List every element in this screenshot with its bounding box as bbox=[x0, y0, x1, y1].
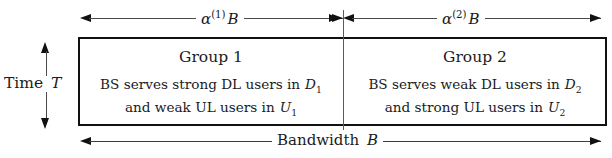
dimension-label-time: Time T bbox=[2, 76, 63, 92]
group-1-line-1-prefix: BS serves strong DL users in bbox=[100, 76, 300, 92]
group-2-line-2-prefix: and strong UL users in bbox=[385, 99, 543, 115]
set-D-subscript: 2 bbox=[576, 84, 582, 95]
group-1-title: Group 1 bbox=[80, 50, 342, 66]
arrow-head-right-icon bbox=[590, 14, 601, 22]
bandwidth-label-text: Bandwidth bbox=[277, 131, 359, 149]
group-2-block: Group 2 BS serves weak DL users inD2 and… bbox=[345, 42, 605, 124]
set-D-subscript: 1 bbox=[316, 84, 322, 95]
group-1-line-1: BS serves strong DL users inD1 bbox=[80, 78, 342, 94]
arrow-head-down-icon bbox=[41, 118, 49, 129]
group-2-title: Group 2 bbox=[345, 50, 605, 66]
arrow-head-right-icon bbox=[590, 137, 601, 145]
bandwidth-symbol: B bbox=[367, 131, 378, 149]
set-U-symbol: U bbox=[548, 99, 559, 115]
dimension-label-bandwidth: Bandwidth B bbox=[272, 133, 383, 148]
alpha-superscript-2: (2) bbox=[452, 9, 466, 20]
alpha-symbol: α bbox=[442, 10, 452, 28]
group-divider bbox=[343, 10, 344, 130]
time-symbol: T bbox=[51, 74, 61, 92]
group-1-block: Group 1 BS serves strong DL users inD1 a… bbox=[80, 42, 342, 124]
group-2-line-1-prefix: BS serves weak DL users in bbox=[368, 76, 559, 92]
dimension-label-top-right: α(2)B bbox=[437, 10, 485, 27]
arrow-head-center-icon bbox=[329, 14, 338, 22]
group-2-line-2: and strong UL users inU2 bbox=[345, 101, 605, 117]
group-1-line-2: and weak UL users inU1 bbox=[80, 101, 342, 117]
time-label-text: Time bbox=[4, 74, 43, 92]
bandwidth-symbol: B bbox=[469, 10, 481, 28]
group-2-line-1: BS serves weak DL users inD2 bbox=[345, 78, 605, 94]
set-U-subscript: 2 bbox=[559, 107, 565, 118]
group-1-line-2-prefix: and weak UL users in bbox=[125, 99, 275, 115]
set-U-subscript: 1 bbox=[291, 107, 297, 118]
dimension-label-top-left: α(1)B bbox=[196, 10, 244, 27]
set-D-symbol: D bbox=[305, 76, 316, 92]
set-D-symbol: D bbox=[565, 76, 576, 92]
bandwidth-symbol: B bbox=[228, 10, 240, 28]
alpha-symbol: α bbox=[201, 10, 211, 28]
resource-allocation-diagram: α(1)B α(2)B Time T Group 1 BS serves str… bbox=[0, 0, 612, 158]
set-U-symbol: U bbox=[280, 99, 291, 115]
alpha-superscript-1: (1) bbox=[211, 9, 225, 20]
